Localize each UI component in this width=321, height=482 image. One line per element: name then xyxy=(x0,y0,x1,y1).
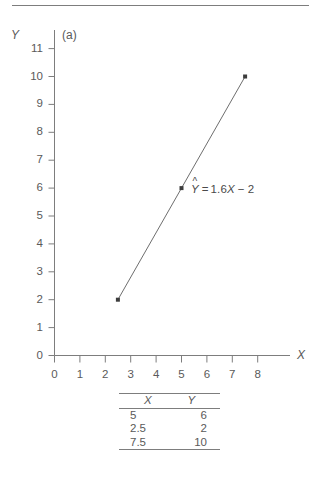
column-header-y: Y xyxy=(171,394,220,409)
x-tick-label: 0 xyxy=(47,369,63,381)
y-tick-label: 7 xyxy=(17,154,43,166)
table-header-row: X Y xyxy=(119,394,220,409)
cell-y: 6 xyxy=(171,408,220,422)
x-tick-label: 4 xyxy=(148,369,164,381)
cell-x: 7.5 xyxy=(119,436,171,450)
equation-intercept: − 2 xyxy=(238,183,255,195)
cell-x: 2.5 xyxy=(119,422,171,436)
cell-y: 2 xyxy=(171,422,220,436)
y-tick-label: 2 xyxy=(17,294,43,306)
y-tick-label: 6 xyxy=(17,182,43,194)
column-header-x: X xyxy=(119,394,171,409)
x-tick-label: 3 xyxy=(123,369,139,381)
y-tick-label: 5 xyxy=(17,210,43,222)
y-tick-label: 3 xyxy=(17,266,43,278)
y-tick-label: 0 xyxy=(17,350,43,362)
x-tick-label: 6 xyxy=(199,369,215,381)
cell-x: 5 xyxy=(119,408,171,422)
cell-y: 10 xyxy=(171,436,220,450)
x-tick-label: 5 xyxy=(174,369,190,381)
equation-equals: = xyxy=(202,183,209,195)
data-point-marker xyxy=(116,298,120,302)
equation-slope: 1.6 xyxy=(211,183,227,195)
y-tick-label: 1 xyxy=(17,322,43,334)
y-tick-label: 4 xyxy=(17,238,43,250)
x-tick-marks xyxy=(55,356,258,363)
equation-variable: X xyxy=(227,183,235,195)
data-point-marker xyxy=(243,75,247,79)
y-tick-label: 9 xyxy=(17,98,43,110)
x-tick-label: 8 xyxy=(250,369,266,381)
y-tick-marks xyxy=(49,49,55,356)
table-row: 2.5 2 xyxy=(119,422,220,436)
x-tick-label: 7 xyxy=(224,369,240,381)
regression-equation-label: Y=1.6X− 2 xyxy=(191,184,254,196)
table-row: 7.5 10 xyxy=(119,436,220,450)
table-row: 5 6 xyxy=(119,408,220,422)
y-tick-label: 10 xyxy=(17,71,43,83)
xy-value-table: X Y 5 6 2.5 2 7.5 10 xyxy=(119,393,220,450)
x-axis-label: X xyxy=(297,349,305,361)
x-tick-label: 1 xyxy=(72,369,88,381)
panel-label: (a) xyxy=(62,29,77,41)
data-table: X Y 5 6 2.5 2 7.5 10 xyxy=(119,393,220,450)
y-hat-symbol: Y xyxy=(191,184,199,196)
x-tick-label: 2 xyxy=(97,369,113,381)
table-body: 5 6 2.5 2 7.5 10 xyxy=(119,408,220,450)
y-axis-label: Y xyxy=(11,29,19,41)
data-point-marker xyxy=(180,186,184,190)
table-head: X Y xyxy=(119,394,220,409)
y-tick-label: 8 xyxy=(17,126,43,138)
y-tick-label: 11 xyxy=(17,43,43,55)
